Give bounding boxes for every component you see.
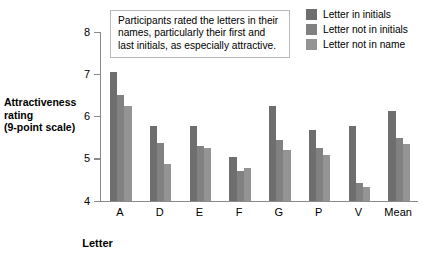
bar [349, 126, 356, 201]
y-axis-title-line-3: (9-point scale) [4, 121, 96, 134]
annotation-box: Participants rated the letters in their … [110, 10, 290, 58]
legend-swatch-icon [306, 9, 317, 20]
bar [197, 146, 204, 201]
bar [237, 171, 244, 201]
bar [356, 183, 363, 201]
bar [363, 187, 370, 201]
x-tick-label: G [259, 206, 299, 218]
bar [117, 95, 124, 201]
bar-group [309, 32, 331, 201]
bar-group [349, 32, 371, 201]
bar [150, 126, 157, 201]
x-tick-label: F [219, 206, 259, 218]
bar [283, 150, 290, 201]
legend-label: Letter in initials [323, 9, 391, 20]
bar-group [388, 32, 410, 201]
x-tick-label: A [100, 206, 140, 218]
legend-swatch-icon [306, 24, 317, 35]
bar [204, 148, 211, 201]
y-tick-label: 8 [72, 27, 90, 38]
legend-item: Letter not in name [306, 38, 431, 52]
bar [269, 106, 276, 201]
bar-chart: Attractiveness rating (9-point scale) 87… [0, 0, 431, 272]
bar [157, 143, 164, 201]
legend-label: Letter not in name [323, 39, 405, 50]
chart-legend: Letter in initialsLetter not in initials… [306, 8, 431, 53]
x-tick-label: V [339, 206, 379, 218]
x-tick-label: E [180, 206, 220, 218]
y-tick-label: 6 [72, 111, 90, 122]
annotation-text: Participants rated the letters in their … [118, 15, 278, 51]
bar [110, 72, 117, 201]
legend-swatch-icon [306, 39, 317, 50]
bar [403, 144, 410, 201]
x-axis-title: Letter [0, 237, 431, 249]
x-tick-label: Mean [378, 206, 418, 218]
bar [396, 138, 403, 201]
y-axis-title-line-1: Attractiveness [4, 96, 96, 109]
x-tick-label: P [299, 206, 339, 218]
legend-item: Letter in initials [306, 8, 431, 22]
legend-item: Letter not in initials [306, 23, 431, 37]
bar [229, 157, 236, 201]
bar [124, 106, 131, 201]
x-tick-label: D [140, 206, 180, 218]
bar [316, 148, 323, 201]
legend-label: Letter not in initials [323, 24, 408, 35]
bar [164, 164, 171, 201]
bar [309, 130, 316, 201]
bar [276, 140, 283, 201]
bar [323, 155, 330, 201]
x-axis-title-text: Letter [82, 237, 113, 249]
y-tick-label: 7 [72, 69, 90, 80]
bar [190, 126, 197, 201]
bar [244, 168, 251, 201]
y-tick-label: 4 [72, 196, 90, 207]
y-tick-label: 5 [72, 153, 90, 164]
bar [388, 111, 395, 201]
